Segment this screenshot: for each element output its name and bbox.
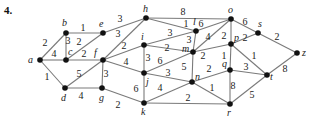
node-label-a: a: [28, 54, 33, 65]
node-p: [228, 41, 234, 47]
node-label-e: e: [99, 18, 104, 29]
edge-weight-m-n: 5: [182, 61, 187, 72]
node-l: [193, 28, 199, 34]
edge-weight-j-n: 3: [166, 67, 171, 78]
edge-weight-a-d: 1: [45, 71, 50, 82]
edge-e-h: [103, 18, 146, 33]
edge-weight-m-p: 2: [201, 50, 206, 61]
edge-h-o: [146, 18, 231, 19]
node-g: [99, 85, 105, 91]
node-label-s: s: [258, 18, 262, 29]
edge-weight-k-n: 4: [158, 82, 163, 93]
edge-weight-f-j: 4: [124, 56, 129, 67]
edge-weight-b-e: 1: [81, 22, 86, 33]
edge-l-m: [193, 31, 196, 52]
edge-weight-i-j: 3: [146, 52, 151, 63]
edge-weight-q-r: 8: [231, 80, 236, 91]
node-s: [255, 30, 261, 36]
node-label-d: d: [61, 92, 67, 103]
edge-weight-g-k: 2: [116, 99, 121, 110]
node-o: [228, 16, 234, 22]
weighted-graph-diagram: 4. 2411322543324328163324363645226221138…: [0, 0, 320, 117]
node-c: [63, 57, 69, 63]
node-d: [62, 85, 68, 91]
edge-weight-l-o: 6: [199, 18, 204, 29]
edge-p-q: [230, 44, 231, 70]
edge-weight-a-c: 4: [52, 48, 57, 59]
edge-weight-i-l: 3: [168, 27, 173, 38]
edge-weight-m-o: 4: [206, 31, 211, 42]
edge-weight-p-s: 2: [243, 32, 248, 43]
node-label-j: j: [144, 76, 149, 87]
node-label-q: q: [222, 58, 227, 69]
edge-weight-h-o: 8: [181, 6, 186, 17]
node-label-o: o: [228, 4, 233, 15]
edge-weight-a-b: 2: [43, 37, 48, 48]
problem-number: 4.: [4, 4, 13, 16]
edge-weight-h-l: 1: [184, 18, 189, 29]
node-t: [264, 72, 270, 78]
node-a: [37, 57, 43, 63]
node-label-i: i: [141, 31, 144, 42]
edge-weight-k-r: 2: [186, 92, 191, 103]
node-label-n: n: [195, 71, 200, 82]
node-label-k: k: [141, 106, 146, 117]
edge-m-n: [192, 52, 193, 82]
edge-weight-o-s: 6: [243, 16, 248, 27]
edge-weight-b-c: 3: [66, 35, 71, 46]
edge-weight-d-f: 5: [77, 68, 82, 79]
node-label-r: r: [227, 107, 231, 117]
node-label-b: b: [62, 17, 67, 28]
edge-weight-t-z: 8: [283, 63, 288, 74]
edge-weight-p-t: 1: [252, 50, 257, 61]
node-label-p: p: [233, 32, 239, 43]
node-r: [227, 101, 233, 107]
edge-weight-q-t: 3: [244, 61, 249, 72]
edge-weight-c-f: 2: [82, 48, 87, 59]
edge-weight-f-i: 2: [122, 40, 127, 51]
edge-r-t: [230, 75, 267, 104]
node-h: [143, 15, 149, 21]
edge-weight-d-g: 4: [79, 90, 84, 101]
edge-k-r: [144, 103, 230, 104]
node-b: [63, 30, 69, 36]
edge-weight-c-e: 2: [77, 36, 82, 47]
edge-weight-n-r: 1: [210, 82, 215, 93]
edge-d-f: [65, 60, 103, 88]
node-label-l: l: [193, 16, 196, 27]
node-label-m: m: [182, 43, 189, 54]
node-f: [100, 57, 106, 63]
node-label-z: z: [301, 47, 306, 58]
edge-weight-n-q: 2: [207, 63, 212, 74]
node-n: [189, 79, 195, 85]
node-label-h: h: [143, 3, 148, 14]
node-j: [141, 70, 147, 76]
node-z: [294, 50, 300, 56]
edge-weight-j-m: 6: [158, 55, 163, 66]
edge-weight-e-h: 3: [118, 13, 123, 24]
node-m: [190, 49, 196, 55]
edge-weight-j-k: 6: [134, 83, 139, 94]
edge-f-h: [103, 18, 146, 60]
node-label-c: c: [68, 46, 73, 57]
edge-weight-s-z: 2: [275, 31, 280, 42]
edge-weight-f-h: 3: [116, 28, 121, 39]
node-k: [141, 100, 147, 106]
edge-weight-o-p: 2: [222, 30, 227, 41]
node-e: [100, 30, 106, 36]
node-label-f: f: [94, 47, 98, 58]
node-q: [227, 67, 233, 73]
edge-weight-i-m: 2: [165, 42, 170, 53]
node-label-t: t: [270, 71, 273, 82]
node-i: [141, 42, 147, 48]
edge-weight-r-t: 5: [250, 89, 255, 100]
edge-weight-f-g: 3: [104, 68, 109, 79]
node-label-g: g: [99, 92, 104, 103]
